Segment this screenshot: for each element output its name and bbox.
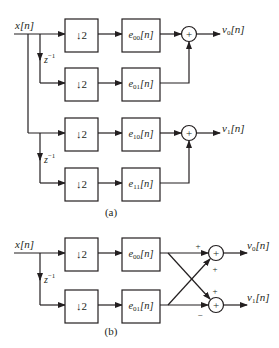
adder-a0-symbol: + xyxy=(186,28,192,40)
output-label-v0-b: v0[n] xyxy=(247,239,269,253)
line-filter-to-adder-01 xyxy=(160,42,189,83)
downsample-label-b0: ↓2 xyxy=(76,248,87,260)
delay-label-a2: z−1 xyxy=(43,152,56,165)
sign-top-upper: + xyxy=(195,241,200,251)
adder-b0-symbol: + xyxy=(213,247,219,259)
downsample-label-10: ↓2 xyxy=(76,128,87,140)
output-label-v1-a: v1[n] xyxy=(222,122,244,136)
downsample-label-b1: ↓2 xyxy=(76,300,87,312)
cross-e00-to-adder1 xyxy=(168,253,210,299)
sign-bottom-lower: − xyxy=(197,310,202,320)
caption-a: (a) xyxy=(105,206,118,219)
part-b-diagram: x[n] z−1 ↓2 e00[n] ↓2 e01[n] + + + + + − xyxy=(14,238,269,338)
downsample-label-01: ↓2 xyxy=(76,78,87,90)
part-a-diagram: x[n] z−1 ↓2 e00[n] ↓2 e01[n] + v0[n] z−1 xyxy=(14,19,244,219)
delay-label-a1: z−1 xyxy=(43,52,56,65)
cross-e01-to-adder0 xyxy=(168,259,210,305)
sign-top-lower: + xyxy=(212,264,217,274)
sign-bottom-upper: + xyxy=(212,286,217,296)
caption-b: (b) xyxy=(105,325,118,338)
input-label-b: x[n] xyxy=(14,238,34,250)
polyphase-filter-diagram: x[n] z−1 ↓2 e00[n] ↓2 e01[n] + v0[n] z−1 xyxy=(0,0,279,348)
line-filter-to-adder-11 xyxy=(160,141,189,183)
delay-label-b: z−1 xyxy=(43,272,56,285)
output-label-v0-a: v0[n] xyxy=(222,23,244,37)
adder-a1-symbol: + xyxy=(186,127,192,139)
downsample-label-11: ↓2 xyxy=(76,178,87,190)
output-label-v1-b: v1[n] xyxy=(247,291,269,305)
downsample-label-00: ↓2 xyxy=(76,29,87,41)
adder-b1-symbol: + xyxy=(213,299,219,311)
input-label-a: x[n] xyxy=(14,19,34,31)
